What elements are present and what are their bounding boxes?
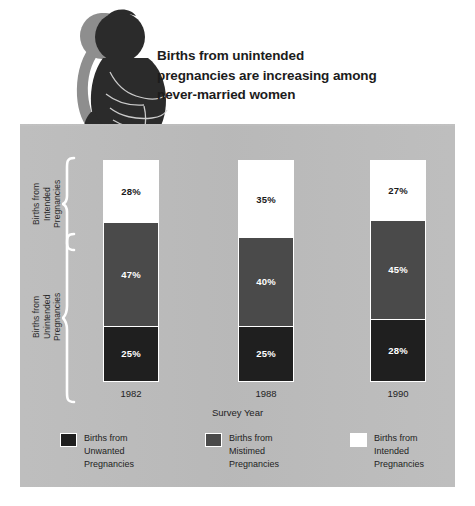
legend-label: Births from Mistimed Pregnancies bbox=[229, 432, 279, 470]
bar-segment-label: 45% bbox=[388, 264, 408, 275]
legend-item-intended: Births from Intended Pregnancies bbox=[350, 432, 424, 470]
legend-label: Births from Unwanted Pregnancies bbox=[84, 432, 134, 470]
stacked-bar-1982: 28% 47% 25% bbox=[103, 160, 159, 382]
bar-segment-label: 40% bbox=[256, 276, 276, 287]
bar-segment-label: 47% bbox=[121, 269, 141, 280]
chart-figure: Births from unintended pregnancies are i… bbox=[0, 0, 475, 506]
bar-segment-intended: 27% bbox=[371, 161, 425, 220]
chart-title-line-1: Births from unintended bbox=[157, 46, 407, 66]
legend-item-mistimed: Births from Mistimed Pregnancies bbox=[205, 432, 279, 470]
plot-area: Births from Intended Pregnancies Births … bbox=[20, 124, 455, 487]
chart-title: Births from unintended pregnancies are i… bbox=[157, 46, 407, 105]
legend-swatch-intended-icon bbox=[350, 433, 367, 447]
x-tick-label-1990: 1990 bbox=[370, 388, 426, 399]
stacked-bar-1988: 35% 40% 25% bbox=[238, 160, 294, 382]
stacked-bar-1990: 27% 45% 28% bbox=[370, 160, 426, 382]
bar-segment-mistimed: 40% bbox=[239, 237, 293, 325]
chart-legend: Births from Unwanted Pregnancies Births … bbox=[20, 432, 455, 480]
bar-segment-label: 25% bbox=[121, 348, 141, 359]
bar-segment-label: 35% bbox=[256, 194, 276, 205]
bar-segment-label: 25% bbox=[256, 348, 276, 359]
bar-segment-mistimed: 45% bbox=[371, 220, 425, 319]
bar-segment-unwanted: 25% bbox=[239, 326, 293, 382]
bar-segment-mistimed: 47% bbox=[104, 222, 158, 325]
axis-bracket-label-unintended: Births from Unintended Pregnancies bbox=[31, 256, 63, 378]
bar-segment-unwanted: 25% bbox=[104, 326, 158, 382]
brace-unintended-icon bbox=[62, 232, 76, 404]
x-tick-label-1982: 1982 bbox=[103, 388, 159, 399]
bar-segment-label: 28% bbox=[121, 186, 141, 197]
chart-panel: Births from Intended Pregnancies Births … bbox=[20, 124, 455, 487]
axis-bracket-label-intended: Births from Intended Pregnancies bbox=[31, 158, 63, 250]
legend-label: Births from Intended Pregnancies bbox=[374, 432, 424, 470]
chart-title-line-2: pregnancies are increasing among bbox=[157, 66, 407, 86]
chart-title-line-3: never-married women bbox=[157, 85, 407, 105]
x-tick-label-1988: 1988 bbox=[238, 388, 294, 399]
legend-item-unwanted: Births from Unwanted Pregnancies bbox=[60, 432, 134, 470]
bar-segment-intended: 28% bbox=[104, 161, 158, 222]
bar-segment-label: 28% bbox=[388, 345, 408, 356]
x-axis-title: Survey Year bbox=[20, 407, 455, 418]
bar-segment-label: 27% bbox=[388, 185, 408, 196]
legend-swatch-unwanted-icon bbox=[60, 433, 77, 447]
bar-segment-unwanted: 28% bbox=[371, 319, 425, 381]
bar-segment-intended: 35% bbox=[239, 161, 293, 237]
legend-swatch-mistimed-icon bbox=[205, 433, 222, 447]
